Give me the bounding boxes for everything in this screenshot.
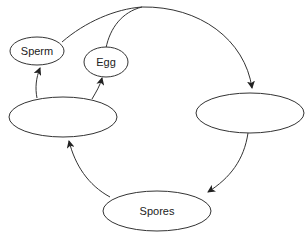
diagram-canvas: Sperm Egg Spores (0, 0, 308, 237)
edge-spores-to-left-stage (69, 141, 110, 197)
node-spores-label: Spores (140, 205, 175, 217)
edge-right-stage-to-spores (208, 133, 248, 192)
node-egg-label: Egg (96, 56, 116, 68)
edge-join-to-right-stage (142, 7, 252, 88)
node-sperm-label: Sperm (21, 45, 53, 57)
node-spores: Spores (103, 191, 211, 231)
node-right-stage (196, 93, 304, 133)
node-left-stage (9, 97, 117, 137)
edge-left-stage-to-sperm (36, 68, 40, 98)
edge-left-stage-to-egg (92, 78, 102, 99)
node-egg: Egg (84, 47, 128, 77)
node-sperm: Sperm (10, 37, 64, 65)
life-cycle-diagram: Sperm Egg Spores (0, 0, 308, 237)
